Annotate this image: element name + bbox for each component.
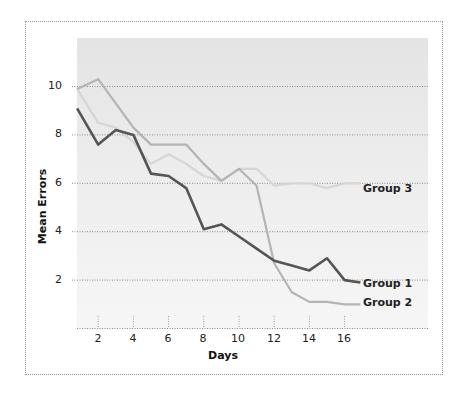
x-tick-label-4: 4: [118, 332, 148, 345]
series-lines: [77, 79, 360, 304]
x-tick-label-8: 8: [188, 332, 218, 345]
series-line-group-2: [77, 79, 360, 304]
x-tick-marks: [98, 316, 344, 328]
y-tick-label-2: 2: [32, 273, 62, 286]
series-line-group-3: [77, 89, 360, 188]
x-tick-label-12: 12: [259, 332, 289, 345]
x-tick-label-2: 2: [83, 332, 113, 345]
y-axis-title: Mean Errors: [36, 167, 49, 247]
series-label-group-3: Group 3: [363, 182, 412, 195]
x-tick-label-16: 16: [329, 332, 359, 345]
series-label-group-1: Group 1: [363, 277, 412, 290]
x-tick-label-6: 6: [153, 332, 183, 345]
x-tick-label-14: 14: [294, 332, 324, 345]
x-tick-label-10: 10: [223, 332, 253, 345]
gridlines: [72, 87, 428, 329]
x-axis-title: Days: [208, 349, 238, 362]
y-tick-label-10: 10: [32, 79, 62, 92]
series-label-group-2: Group 2: [363, 296, 412, 309]
y-tick-label-8: 8: [32, 127, 62, 140]
